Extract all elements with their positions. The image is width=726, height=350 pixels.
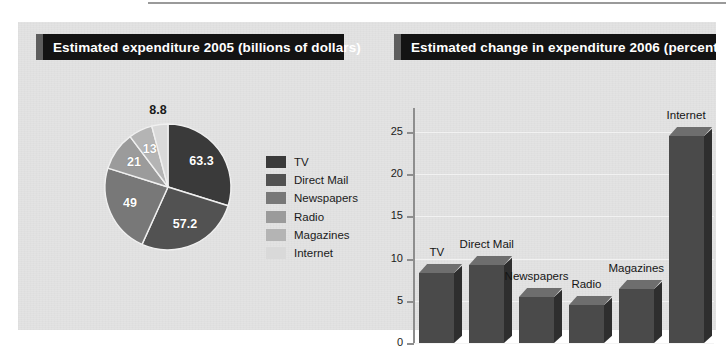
legend-swatch-icon	[266, 156, 286, 168]
pie-value-label-tv: 63.3	[187, 154, 215, 168]
legend-item-label: Radio	[294, 211, 324, 223]
bar-internet	[669, 136, 704, 343]
pie-value-label-direct-mail: 57.2	[171, 217, 199, 231]
legend-item-magazines: Magazines	[266, 226, 358, 244]
y-axis-tick-mark	[407, 259, 414, 261]
pie-chart-title-banner: Estimated expenditure 2005 (billions of …	[36, 34, 344, 60]
legend-item-label: Magazines	[294, 229, 350, 241]
bar-tv	[419, 273, 454, 343]
pie-value-label-internet: 8.8	[144, 103, 172, 117]
bar-front-face	[569, 305, 604, 343]
y-axis-tick-mark	[407, 216, 414, 218]
y-axis-tick-label: 15	[381, 209, 403, 221]
top-horizontal-rule	[148, 2, 726, 4]
bar-front-face	[619, 289, 654, 343]
legend-item-newspapers: Newspapers	[266, 189, 358, 207]
bar-side-face	[654, 282, 662, 343]
bar-chart-title: Estimated change in expenditure 2006 (pe…	[401, 40, 726, 55]
bar-front-face	[519, 297, 554, 343]
legend-item-direct-mail: Direct Mail	[266, 171, 358, 189]
legend-swatch-icon	[266, 229, 286, 241]
pie-value-label-magazines: 13	[136, 142, 164, 156]
legend-swatch-icon	[266, 247, 286, 259]
legend-item-label: Internet	[294, 247, 333, 259]
bar-magazines	[619, 289, 654, 343]
y-axis-tick-label: 5	[381, 294, 403, 306]
legend-swatch-icon	[266, 211, 286, 223]
bar-front-face	[669, 136, 704, 343]
legend-item-internet: Internet	[266, 244, 358, 262]
legend-item-label: Direct Mail	[294, 174, 348, 186]
bar-front-face	[419, 273, 454, 343]
x-axis-baseline	[414, 343, 714, 344]
legend-swatch-icon	[266, 174, 286, 186]
bar-side-face	[554, 290, 562, 343]
legend-item-tv: TV	[266, 153, 358, 171]
y-axis-tick-label: 25	[381, 125, 403, 137]
figure-panel: Estimated expenditure 2005 (billions of …	[18, 22, 716, 330]
bar-side-face	[704, 129, 712, 343]
bar-newspapers	[519, 297, 554, 343]
bar-label-internet: Internet	[652, 109, 721, 121]
y-axis-tick-label: 0	[381, 336, 403, 348]
legend-item-label: TV	[294, 156, 309, 168]
legend-swatch-icon	[266, 192, 286, 204]
legend-item-radio: Radio	[266, 208, 358, 226]
bar-label-radio: Radio	[552, 278, 621, 290]
y-axis-tick-mark	[407, 174, 414, 176]
gridline	[415, 132, 714, 133]
bar-side-face	[454, 266, 462, 343]
pie-chart-legend: TVDirect MailNewspapersRadioMagazinesInt…	[266, 153, 358, 262]
pie-chart-svg	[73, 92, 263, 282]
bar-direct-mail	[469, 265, 504, 343]
y-axis-tick-mark	[407, 301, 414, 303]
bar-front-face	[469, 265, 504, 343]
legend-item-label: Newspapers	[294, 192, 358, 204]
y-axis-tick-mark	[407, 132, 414, 134]
bar-chart-figure: Estimated change in expenditure 2006 (pe…	[376, 22, 726, 330]
bar-radio	[569, 305, 604, 343]
pie-chart-title: Estimated expenditure 2005 (billions of …	[43, 40, 361, 55]
y-axis-tick-mark	[407, 343, 414, 345]
y-axis-line	[413, 108, 415, 344]
bar-label-magazines: Magazines	[602, 262, 671, 274]
y-axis-tick-label: 10	[381, 252, 403, 264]
y-axis-tick-label: 20	[381, 167, 403, 179]
pie-value-label-newspapers: 49	[116, 196, 144, 210]
pie-chart-figure: Estimated expenditure 2005 (billions of …	[18, 22, 368, 330]
bar-chart-title-banner: Estimated change in expenditure 2006 (pe…	[394, 34, 716, 60]
bar-side-face	[604, 298, 612, 343]
bar-label-direct-mail: Direct Mail	[452, 238, 521, 250]
pie-value-label-radio: 21	[120, 155, 148, 169]
